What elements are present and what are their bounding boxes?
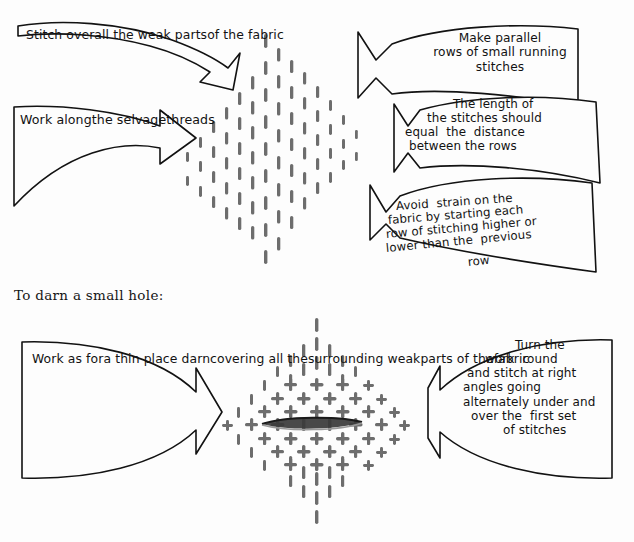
callout-line: the selvage [92,112,167,127]
callout-line: rows of small running [400,45,600,59]
callout-line: all the weak parts [94,27,207,42]
callout-text-turn-work: Turn thework roundand stitch at rightang… [463,338,595,437]
callout-text-make-parallel: Make parallelrows of small runningstitch… [400,31,600,74]
callout-line: row [467,248,537,269]
callout-line: Work as for [32,351,103,366]
callout-line: of stitches [503,423,595,437]
callout-text-stitch-length: The length ofthe stitches shouldequal th… [405,97,542,153]
section-label-darn-small-hole: To darn a small hole: [14,287,164,303]
callout-line: stitches [400,60,600,74]
callout-line: surrounding weak [308,351,420,366]
darning-instructions-page: Stitch overall the weak partsof the fabr… [0,0,634,542]
callout-text-stitch-over: Stitch overall the weak partsof the fabr… [26,28,284,43]
callout-line: threads [166,112,215,127]
callout-line: Stitch over [26,27,94,42]
callout-line: work round [485,352,595,366]
callout-text-work-along: Work alongthe selvagethreads [20,113,215,128]
callout-text-work-as-for: Work as fora thin place darncovering all… [32,352,529,367]
callout-line: over the first set [471,409,595,423]
callout-line: alternately under and [463,395,595,409]
callout-line: covering all the [210,351,308,366]
callout-line: of the fabric [207,27,284,42]
callout-line: a thin place darn [103,351,210,366]
callout-line: Work along [20,112,92,127]
callout-line: The length of [453,97,542,111]
stitch-field-small-hole [222,318,410,524]
callout-text-avoid-strain: Avoid strain on thefabric by starting ea… [386,200,537,270]
callout-line: Turn the [515,338,595,352]
callout-line: angles going [463,380,595,394]
callout-line: Make parallel [400,31,600,45]
callout-line: and stitch at right [467,366,595,380]
callout-line: between the rows [409,139,542,153]
callout-line: equal the distance [405,125,542,139]
callout-line: the stitches should [427,111,542,125]
diagram-vector-layer [0,0,634,542]
